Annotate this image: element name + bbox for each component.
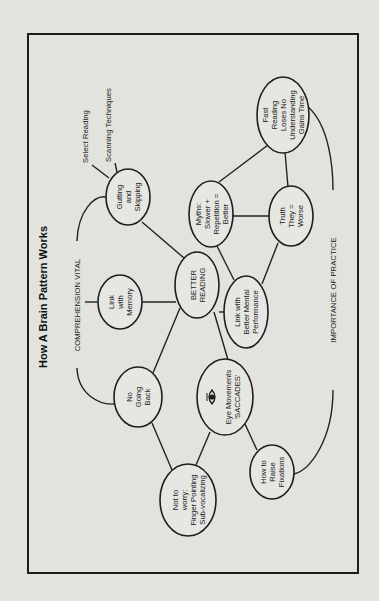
svg-text:Loses No: Loses No (279, 99, 288, 131)
svg-text:Performance: Performance (251, 290, 260, 333)
svg-text:Not to: Not to (171, 490, 180, 510)
node-link-with-memory: Link with Memory (98, 275, 142, 329)
svg-text:Better Mental: Better Mental (242, 289, 251, 334)
svg-text:Slower +: Slower + (203, 199, 212, 229)
svg-text:Fast: Fast (261, 107, 270, 123)
svg-text:Gutting: Gutting (115, 185, 124, 209)
svg-text:worry:: worry: (180, 490, 189, 512)
svg-text:Myths:: Myths: (194, 203, 203, 225)
svg-text:Truth: Truth (278, 207, 287, 224)
importance-of-practice-label: IMPORTANCE OF PRACTICE (329, 237, 338, 342)
svg-text:Gains Time: Gains Time (297, 96, 306, 134)
svg-text:READING: READING (198, 268, 207, 303)
node-better-reading: BETTER READING (175, 252, 219, 318)
node-not-to-worry: Not to worry: Finger Pointing Sub-vocali… (160, 464, 216, 536)
svg-text:Fixations: Fixations (277, 457, 286, 488)
svg-text:Raise: Raise (268, 462, 277, 481)
scanning-techniques-label: Scanning Techniques (104, 88, 113, 162)
svg-text:'SACCADES': 'SACCADES' (233, 374, 242, 419)
svg-text:They =: They = (287, 204, 296, 228)
node-myths: Myths: Slower + Repetition = Better (189, 181, 233, 247)
svg-text:with: with (116, 295, 125, 310)
mind-map-diagram: How A Brain Pattern Works COM (0, 0, 379, 601)
svg-text:How to: How to (259, 460, 268, 484)
node-gutting-and-skipping: Gutting and Skipping (106, 169, 150, 225)
node-truth: Truth They = Worse (269, 186, 313, 246)
svg-text:Eye Movements: Eye Movements (224, 370, 233, 425)
svg-text:Understanding: Understanding (288, 90, 297, 139)
svg-text:Finger Pointing: Finger Pointing (189, 474, 198, 525)
node-no-going-back: No Going Back (114, 367, 162, 427)
svg-text:No: No (125, 392, 134, 402)
diagram-title: How A Brain Pattern Works (37, 226, 49, 368)
svg-text:Memory: Memory (125, 288, 134, 316)
svg-text:Link: Link (107, 295, 116, 309)
node-fast-reading: Fast Reading Loses No Understanding Gain… (257, 77, 309, 153)
svg-text:Reading: Reading (270, 101, 279, 129)
node-how-to-raise-fixations: How to Raise Fixations (250, 445, 294, 499)
comprehension-vital-label: COMPREHENSION VITAL (73, 259, 82, 351)
svg-text:Sub-vocalizing: Sub-vocalizing (198, 475, 207, 524)
node-link-better-mental-performance: Link with Better Mental Performance (224, 276, 268, 348)
svg-text:Back: Back (143, 388, 152, 405)
select-reading-label: Select Reading (81, 110, 90, 163)
svg-text:Skipping: Skipping (133, 182, 142, 211)
svg-text:and: and (124, 191, 133, 204)
svg-text:Better: Better (221, 203, 230, 224)
svg-text:Link with: Link with (233, 297, 242, 327)
svg-text:Worse: Worse (296, 205, 305, 227)
svg-text:Going: Going (134, 387, 143, 407)
svg-text:Repetition =: Repetition = (212, 193, 221, 234)
scanned-page: How A Brain Pattern Works COM (0, 0, 379, 601)
svg-text:BETTER: BETTER (189, 270, 198, 300)
node-eye-movements: Eye Movements 'SACCADES' (197, 359, 253, 435)
